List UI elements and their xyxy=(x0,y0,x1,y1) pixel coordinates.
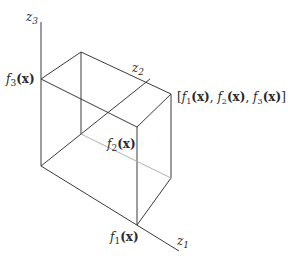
f3-label: f3(x) xyxy=(5,72,35,88)
f2-label: f2(x) xyxy=(106,137,136,153)
z2-axis xyxy=(41,79,150,166)
z2-axis-label: z2 xyxy=(131,61,144,77)
objective-space-diagram: z3 z2 z1 f3(x) f2(x) f1(x) [f1(x), f2(x)… xyxy=(0,0,288,264)
box-edge-top-right xyxy=(137,94,171,127)
box-edge-top-front xyxy=(41,79,137,127)
f1-label: f1(x) xyxy=(109,230,139,246)
z1-axis-label: z1 xyxy=(176,234,189,250)
z3-axis-label: z3 xyxy=(25,10,38,26)
box-edge-bottom-right xyxy=(137,178,171,225)
objective-vector-label: [f1(x), f2(x), f3(x)] xyxy=(177,90,286,106)
box-edge-top-back xyxy=(81,52,171,94)
box-edge-top-left xyxy=(41,52,81,79)
